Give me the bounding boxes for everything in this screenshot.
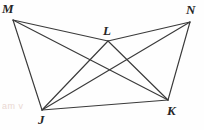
geometry-figure: am v MNLJK [0,0,204,130]
segment-jk [42,100,168,110]
segment-lk [108,41,168,100]
segment-ml [13,20,108,41]
vertex-label-n: N [186,3,195,16]
segment-ln [108,22,190,41]
vertex-label-l: L [103,24,111,37]
vertex-label-j: J [38,113,45,126]
segment-nj [42,22,190,110]
edge-group [13,20,190,110]
vertex-label-m: M [2,2,14,15]
segment-mj [13,20,42,110]
segment-lj [42,41,108,110]
vertex-label-k: K [167,104,176,117]
